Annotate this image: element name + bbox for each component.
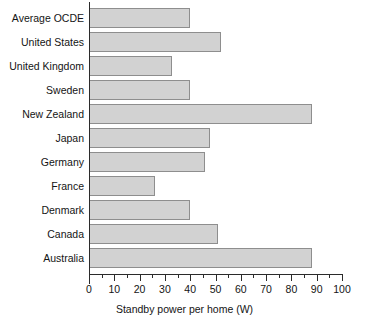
bar-row bbox=[89, 104, 342, 124]
bar bbox=[89, 176, 155, 196]
x-tick-major bbox=[317, 274, 318, 281]
bar-row bbox=[89, 152, 342, 172]
x-tick-major bbox=[140, 274, 141, 281]
bar-row bbox=[89, 128, 342, 148]
x-tick-label: 0 bbox=[76, 283, 102, 295]
x-tick-major bbox=[291, 274, 292, 281]
category-label: United Kingdom bbox=[0, 61, 84, 72]
bar bbox=[89, 104, 312, 124]
x-tick-minor bbox=[203, 274, 204, 278]
category-label: France bbox=[0, 181, 84, 192]
x-tick-major bbox=[266, 274, 267, 281]
x-tick-minor bbox=[304, 274, 305, 278]
x-tick-minor bbox=[329, 274, 330, 278]
x-tick-label: 70 bbox=[253, 283, 279, 295]
x-tick-label: 60 bbox=[228, 283, 254, 295]
x-tick-minor bbox=[178, 274, 179, 278]
bar bbox=[89, 56, 172, 76]
bar-row bbox=[89, 248, 342, 268]
category-label: Japan bbox=[0, 133, 84, 144]
bar-row bbox=[89, 56, 342, 76]
category-label: Australia bbox=[0, 253, 84, 264]
bar-row bbox=[89, 8, 342, 28]
x-tick-minor bbox=[279, 274, 280, 278]
bar bbox=[89, 224, 218, 244]
x-tick-major bbox=[165, 274, 166, 281]
bar bbox=[89, 8, 190, 28]
bar-row bbox=[89, 32, 342, 52]
category-label: Germany bbox=[0, 157, 84, 168]
bar bbox=[89, 200, 190, 220]
x-tick-minor bbox=[127, 274, 128, 278]
bar-row bbox=[89, 176, 342, 196]
x-tick-label: 10 bbox=[101, 283, 127, 295]
bar-row bbox=[89, 200, 342, 220]
x-tick-major bbox=[342, 274, 343, 281]
plot-area bbox=[89, 8, 342, 272]
x-tick-label: 40 bbox=[177, 283, 203, 295]
x-tick-major bbox=[190, 274, 191, 281]
category-label: New Zealand bbox=[0, 109, 84, 120]
bar bbox=[89, 152, 205, 172]
bar-row bbox=[89, 224, 342, 244]
x-tick-label: 20 bbox=[127, 283, 153, 295]
category-label: Average OCDE bbox=[0, 13, 84, 24]
category-label: United States bbox=[0, 37, 84, 48]
x-tick-minor bbox=[152, 274, 153, 278]
y-axis-line bbox=[89, 2, 90, 284]
category-label: Canada bbox=[0, 229, 84, 240]
x-tick-major bbox=[89, 274, 90, 281]
bar bbox=[89, 32, 221, 52]
category-label: Sweden bbox=[0, 85, 84, 96]
bar bbox=[89, 248, 312, 268]
x-tick-label: 100 bbox=[329, 283, 355, 295]
x-tick-minor bbox=[253, 274, 254, 278]
standby-power-bar-chart: Average OCDEUnited StatesUnited KingdomS… bbox=[0, 0, 369, 334]
category-label: Denmark bbox=[0, 205, 84, 216]
x-tick-label: 80 bbox=[278, 283, 304, 295]
bar-row bbox=[89, 80, 342, 100]
x-tick-minor bbox=[228, 274, 229, 278]
x-tick-major bbox=[216, 274, 217, 281]
bar bbox=[89, 80, 190, 100]
x-tick-label: 90 bbox=[304, 283, 330, 295]
x-axis-title: Standby power per home (W) bbox=[0, 303, 369, 315]
category-axis-labels: Average OCDEUnited StatesUnited KingdomS… bbox=[0, 8, 89, 272]
x-tick-major bbox=[241, 274, 242, 281]
x-tick-major bbox=[114, 274, 115, 281]
bar bbox=[89, 128, 210, 148]
x-tick-label: 50 bbox=[203, 283, 229, 295]
x-tick-label: 30 bbox=[152, 283, 178, 295]
x-tick-minor bbox=[102, 274, 103, 278]
